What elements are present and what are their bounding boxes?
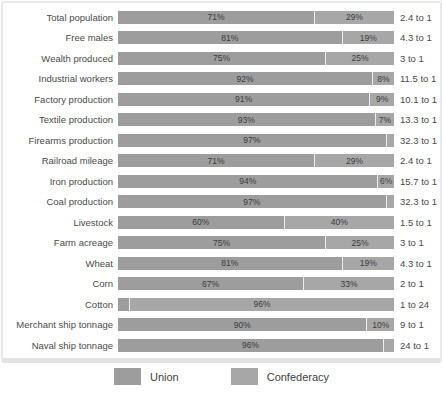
stacked-bar: 92%8% — [118, 72, 394, 85]
category-label: Farm acreage — [3, 237, 118, 248]
confederacy-percent-label: 33% — [340, 280, 357, 289]
chart-row: Livestock60%40%1.5 to 1 — [3, 212, 440, 233]
ratio-label: 3 to 1 — [394, 53, 424, 64]
confederacy-percent-label: 40% — [331, 218, 348, 227]
union-bar-segment: 71% — [118, 11, 314, 24]
confederacy-bar-segment — [383, 339, 394, 352]
chart-row: Factory production91%9%10.1 to 1 — [3, 89, 440, 110]
ratio-label: 2.4 to 1 — [394, 12, 432, 23]
union-bar-segment — [118, 298, 129, 311]
union-bar-segment: 92% — [118, 72, 372, 85]
union-bar-segment: 97% — [118, 134, 386, 147]
confederacy-bar-segment: 7% — [375, 113, 394, 126]
confederacy-percent-label: 96% — [254, 300, 271, 309]
union-percent-label: 92% — [236, 75, 253, 84]
union-bar-segment: 75% — [118, 236, 325, 249]
stacked-bar: 93%7% — [118, 113, 394, 126]
confederacy-bar-segment: 29% — [314, 11, 394, 24]
confederacy-percent-label: 19% — [360, 259, 377, 268]
union-percent-label: 97% — [243, 136, 260, 145]
category-label: Wheat — [3, 258, 118, 269]
confederacy-percent-label: 6% — [380, 177, 392, 186]
stacked-bar: 81%19% — [118, 257, 394, 270]
confederacy-bar-segment: 40% — [284, 216, 394, 229]
ratio-label: 11.5 to 1 — [394, 73, 436, 84]
category-label: Railroad mileage — [3, 155, 118, 166]
chart-row: Wheat81%19%4.3 to 1 — [3, 253, 440, 274]
ratio-label: 2 to 1 — [394, 278, 424, 289]
chart-row: Iron production94%6%15.7 to 1 — [3, 171, 440, 192]
union-bar-segment: 71% — [118, 154, 314, 167]
confederacy-bar-segment: 29% — [314, 154, 394, 167]
ratio-label: 1 to 24 — [394, 299, 429, 310]
category-label: Wealth produced — [3, 53, 118, 64]
chart-row: Coal production3%—97%32.3 to 1 — [3, 192, 440, 213]
union-bar-segment: 93% — [118, 113, 375, 126]
confederacy-percent-label: 9% — [376, 95, 388, 104]
confederacy-percent-label: 29% — [346, 157, 363, 166]
union-percent-label: 71% — [207, 157, 224, 166]
union-percent-label: 93% — [238, 116, 255, 125]
chart-row: Firearms production3%—97%32.3 to 1 — [3, 130, 440, 151]
category-label: Iron production — [3, 176, 118, 187]
chart-row: Merchant ship tonnage90%10%9 to 1 — [3, 315, 440, 336]
stacked-bar: 75%25% — [118, 52, 394, 65]
confederacy-percent-label: 19% — [360, 34, 377, 43]
confederacy-percent-label: 29% — [346, 13, 363, 22]
category-label: Livestock — [3, 217, 118, 228]
chart-row: Naval ship tonnage4%—96%24 to 1 — [3, 335, 440, 356]
stacked-bar: 75%25% — [118, 236, 394, 249]
category-label: Cotton — [3, 299, 118, 310]
union-bar-segment: 97% — [118, 195, 386, 208]
confederacy-legend-label: Confederacy — [267, 371, 329, 383]
category-label: Free males — [3, 32, 118, 43]
confederacy-bar-segment: 10% — [366, 318, 394, 331]
union-percent-label: 60% — [192, 218, 209, 227]
legend-item-union: Union — [114, 368, 179, 385]
stacked-bar: 3%—97% — [118, 195, 394, 208]
confederacy-bar-segment: 19% — [342, 31, 394, 44]
ratio-label: 32.3 to 1 — [394, 196, 437, 207]
union-bar-segment: 75% — [118, 52, 325, 65]
ratio-label: 1.5 to 1 — [394, 217, 432, 228]
ratio-label: 24 to 1 — [394, 340, 429, 351]
chart-rows: Total population71%29%2.4 to 1Free males… — [3, 7, 440, 356]
confederacy-bar-segment: 6% — [377, 175, 394, 188]
stacked-bar: 67%33% — [118, 277, 394, 290]
category-label: Textile production — [3, 114, 118, 125]
union-percent-label: 75% — [213, 54, 230, 63]
category-label: Corn — [3, 278, 118, 289]
union-bar-segment: 90% — [118, 318, 366, 331]
stacked-bar: 94%6% — [118, 175, 394, 188]
union-percent-label: 67% — [202, 280, 219, 289]
confederacy-bar-segment: 33% — [303, 277, 394, 290]
chart-row: Corn67%33%2 to 1 — [3, 274, 440, 295]
union-percent-label: 81% — [221, 259, 238, 268]
stacked-bar: —4%96% — [118, 298, 394, 311]
ratio-label: 9 to 1 — [394, 319, 424, 330]
confederacy-bar-segment: 96% — [129, 298, 394, 311]
union-bar-segment: 96% — [118, 339, 383, 352]
confederacy-bar-segment: 25% — [325, 52, 394, 65]
ratio-label: 10.1 to 1 — [394, 94, 437, 105]
union-bar-segment: 67% — [118, 277, 303, 290]
union-percent-label: 81% — [221, 34, 238, 43]
stacked-bar: 71%29% — [118, 11, 394, 24]
resources-comparison-chart: Total population71%29%2.4 to 1Free males… — [0, 0, 443, 398]
union-percent-label: 91% — [235, 95, 252, 104]
legend: Union Confederacy — [0, 368, 443, 385]
stacked-bar: 90%10% — [118, 318, 394, 331]
category-label: Merchant ship tonnage — [3, 319, 118, 330]
union-percent-label: 75% — [213, 239, 230, 248]
union-bar-segment: 94% — [118, 175, 377, 188]
chart-row: Industrial workers92%8%11.5 to 1 — [3, 69, 440, 90]
union-percent-label: 94% — [239, 177, 256, 186]
chart-row: Wealth produced75%25%3 to 1 — [3, 48, 440, 69]
union-bar-segment: 81% — [118, 31, 342, 44]
confederacy-percent-label: 25% — [351, 54, 368, 63]
stacked-bar: 91%9% — [118, 93, 394, 106]
chart-row: Textile production93%7%13.3 to 1 — [3, 110, 440, 131]
chart-row: Free males81%19%4.3 to 1 — [3, 28, 440, 49]
union-legend-label: Union — [150, 371, 179, 383]
confederacy-percent-label: 8% — [377, 75, 389, 84]
